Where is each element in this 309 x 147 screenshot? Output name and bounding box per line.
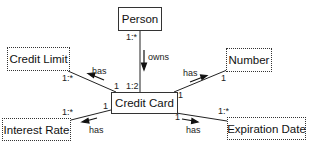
entity-person: Person <box>118 7 162 31</box>
owns-from-cardinality: 1:* <box>126 33 137 42</box>
has-interest-rate-from-cardinality: 1 <box>103 102 108 111</box>
has-interest-rate-to-cardinality: 1:* <box>62 108 73 117</box>
has-number-to-cardinality: 1 <box>221 74 226 83</box>
owns-label: owns <box>148 53 169 62</box>
has-expiration-date-label: has <box>186 126 201 135</box>
attribute-number-label: Number <box>229 54 270 66</box>
owns-to-cardinality: 1:2 <box>126 82 139 91</box>
attribute-credit-limit-label: Credit Limit <box>9 53 67 65</box>
attribute-interest-rate-label: Interest Rate <box>4 124 70 136</box>
attribute-credit-limit: Credit Limit <box>7 47 70 71</box>
has-number-from-cardinality: 1 <box>178 91 183 100</box>
attribute-expiration-date-label: Expiration Date <box>227 123 306 135</box>
entity-person-label: Person <box>122 13 158 25</box>
has-credit-limit-from-cardinality: 1 <box>114 82 119 91</box>
attribute-expiration-date: Expiration Date <box>227 117 306 140</box>
has-credit-limit-to-cardinality: 1:* <box>62 74 73 83</box>
has-interest-rate-label: has <box>89 126 104 135</box>
has-expiration-date-to-cardinality: 1:* <box>218 107 229 116</box>
has-expiration-date-from-cardinality: 1 <box>175 113 180 122</box>
has-number-label: has <box>183 69 198 78</box>
entity-credit-card-label: Credit Card <box>115 97 174 109</box>
attribute-interest-rate: Interest Rate <box>2 118 71 141</box>
has-credit-limit-label: has <box>92 67 107 76</box>
attribute-number: Number <box>226 48 272 72</box>
entity-credit-card: Credit Card <box>111 92 178 114</box>
